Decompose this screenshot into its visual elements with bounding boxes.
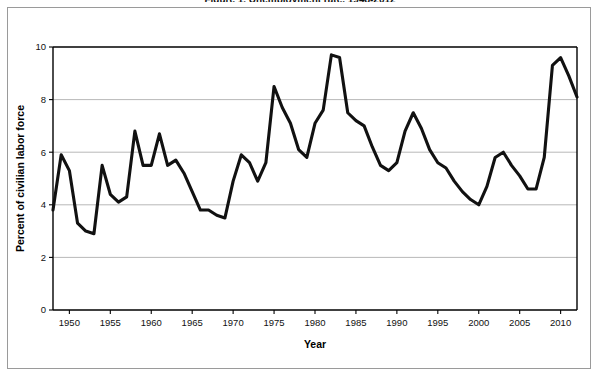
x-tick-label: 2005 xyxy=(509,317,530,328)
y-tick-label: 10 xyxy=(35,41,46,52)
y-tick-label: 4 xyxy=(41,199,46,210)
x-tick-label: 1990 xyxy=(386,317,407,328)
figure-title: Figure 1. Unemployment rate, 1948-2012 xyxy=(0,0,600,2)
x-tick-label: 1950 xyxy=(59,317,80,328)
unemployment-line-chart: 0246810195019551960196519701975198019851… xyxy=(8,8,590,368)
data-series-line xyxy=(53,55,577,234)
y-axis-title: Percent of civilian labor force xyxy=(14,105,26,252)
y-tick-label: 6 xyxy=(41,147,46,158)
x-tick-label: 1995 xyxy=(427,317,448,328)
chart-frame: 0246810195019551960196519701975198019851… xyxy=(7,7,591,369)
y-tick-label: 2 xyxy=(41,252,46,263)
x-tick-label: 1985 xyxy=(345,317,366,328)
x-tick-label: 1960 xyxy=(141,317,162,328)
x-tick-label: 1975 xyxy=(263,317,284,328)
x-axis-title: Year xyxy=(304,338,326,350)
y-tick-label: 8 xyxy=(41,94,46,105)
x-tick-label: 1955 xyxy=(100,317,121,328)
x-tick-label: 1980 xyxy=(304,317,325,328)
chart-screenshot: Figure 1. Unemployment rate, 1948-2012 0… xyxy=(0,0,600,378)
x-tick-label: 2000 xyxy=(468,317,489,328)
x-tick-label: 1970 xyxy=(223,317,244,328)
x-tick-label: 2010 xyxy=(550,317,571,328)
x-tick-label: 1965 xyxy=(182,317,203,328)
y-tick-label: 0 xyxy=(41,304,46,315)
